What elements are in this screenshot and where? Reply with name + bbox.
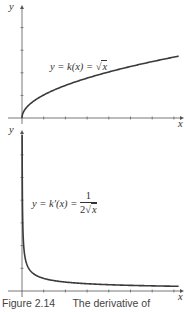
fraction-denominator: 2√x — [80, 203, 97, 216]
top-x-axis-label: x — [178, 118, 183, 129]
y-axis-arrow-icon — [20, 5, 24, 9]
bottom-y-axis-label: y — [9, 124, 14, 135]
denominator-sqrt-arg: x — [91, 203, 97, 215]
y-axis-arrow-icon — [20, 130, 24, 134]
fraction: 12√x — [80, 190, 97, 216]
top-y-axis-label: y — [9, 1, 14, 12]
figure: y x y = k(x) = √x y x y = k′(x) = 12√x F… — [0, 0, 184, 312]
top-sqrt-arg: x — [101, 60, 107, 72]
bottom-x-axis-label: x — [178, 291, 183, 302]
plot-canvas — [0, 0, 184, 312]
fraction-numerator: 1 — [80, 190, 97, 203]
bottom-function-label: y = k′(x) = 12√x — [32, 190, 97, 216]
figure-caption: Figure 2.14 The derivative of — [2, 297, 150, 309]
top-function-prefix: y = k(x) = — [50, 61, 96, 72]
bottom-function-prefix: y = k′(x) = — [32, 198, 80, 209]
top-function-label: y = k(x) = √x — [50, 61, 107, 72]
